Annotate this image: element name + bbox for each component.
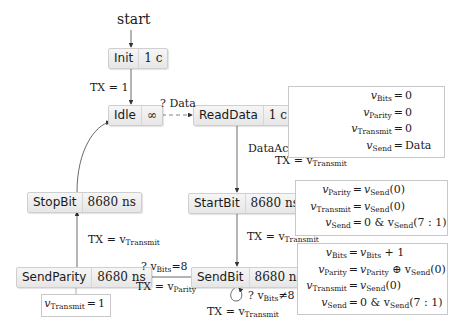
note-readdata: vBits=0 vParity=0 vTransmit=0 vSend=Data: [288, 86, 445, 158]
state-init[interactable]: Init 1 c: [108, 48, 168, 69]
note-row: vBits=0: [294, 89, 439, 106]
start-label: start: [117, 13, 150, 26]
note-row: vParity=vSend(0): [301, 183, 442, 200]
note-row: vSend=Data: [294, 139, 439, 156]
transition-init-idle-label: TX = 1: [90, 81, 128, 94]
note-row: vTransmit=vSend(0): [301, 200, 442, 217]
state-machine-diagram: start Init 1 c Idle ∞ ReadData 1 c Start…: [0, 0, 451, 331]
state-sendbit[interactable]: SendBit 8680 ns: [191, 267, 309, 288]
note-row: vTransmit=0: [294, 122, 439, 139]
state-duration: 8680 ns: [82, 193, 141, 212]
state-name: SendBit: [192, 268, 249, 287]
note-sendparity: vTransmit=1: [41, 294, 111, 317]
transition-sendparity-stopbit-tx: TX = vTransmit: [88, 233, 160, 249]
transition-idle-readdata-label: ? Data: [160, 97, 196, 110]
transition-sendbit-sendparity-guard: ? vBits=8: [141, 260, 188, 276]
state-duration: 1 c: [138, 49, 167, 68]
note-row: vBits=vBits + 1: [303, 246, 442, 263]
state-idle[interactable]: Idle ∞: [108, 105, 163, 126]
note-row: vParity=0: [294, 106, 439, 123]
transition-sendbit-loop-guard: ? vBits≠8: [248, 289, 295, 305]
note-row: vSend=0 & vSend(7 : 1): [303, 296, 442, 313]
state-name: StopBit: [28, 193, 82, 212]
note-row: vTransmit=1: [47, 297, 105, 314]
state-sendparity[interactable]: SendParity 8680 ns: [16, 267, 152, 288]
note-row: vTransmit=vSend(0): [303, 279, 442, 296]
note-row: vSend=0 & vSend(7 : 1): [301, 216, 442, 233]
transition-sendbit-sendparity-action: TX = vParity: [136, 280, 196, 296]
state-startbit[interactable]: StartBit 8680 ns: [188, 193, 305, 214]
state-name: ReadData: [194, 106, 263, 125]
state-stopbit[interactable]: StopBit 8680 ns: [27, 192, 142, 213]
state-name: StartBit: [189, 194, 245, 213]
state-name: Init: [109, 49, 138, 68]
transition-sendbit-loop-action: TX = vTransmit: [207, 305, 279, 321]
state-readdata[interactable]: ReadData 1 c: [193, 105, 293, 126]
state-name: SendParity: [17, 268, 91, 287]
note-row: vParity=vParity ⊕ vSend(0): [303, 263, 442, 280]
note-sendbit: vBits=vBits + 1 vParity=vParity ⊕ vSend(…: [297, 243, 448, 315]
state-name: Idle: [109, 106, 141, 125]
state-duration: ∞: [141, 106, 162, 125]
note-startbit: vParity=vSend(0) vTransmit=vSend(0) vSen…: [295, 180, 448, 236]
